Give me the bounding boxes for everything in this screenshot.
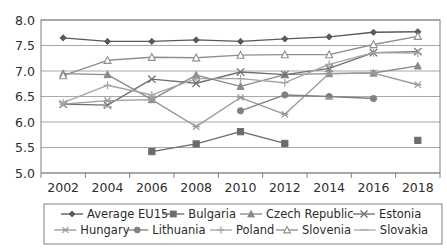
legend-label: Czech Republic [266, 207, 354, 221]
x-tick-label: 2014 [313, 180, 345, 195]
y-tick-label: 6.0 [15, 115, 35, 130]
marker-square [282, 140, 288, 146]
marker-triangle-open [414, 33, 421, 40]
marker-triangle [414, 62, 421, 69]
y-axis-labels: 5.05.56.06.57.07.58.0 [15, 13, 35, 181]
marker-diamond [237, 38, 243, 44]
legend: Average EU15BulgariaCzech RepublicEstoni… [44, 204, 442, 244]
marker-diamond [60, 35, 66, 41]
x-tick-label: 2004 [92, 180, 124, 195]
chart-canvas: 5.05.56.06.57.07.58.02002200420062008201… [0, 0, 447, 249]
x-tick-label: 2010 [225, 180, 257, 195]
marker-diamond [149, 38, 155, 44]
legend-label: Estonia [379, 207, 421, 221]
marker-circle [134, 227, 140, 233]
series-lithuania [237, 92, 376, 114]
legend-label: Average EU15 [87, 207, 168, 221]
marker-square [237, 129, 243, 135]
legend-label: Slovenia [302, 223, 351, 237]
line-chart: 5.05.56.06.57.07.58.02002200420062008201… [0, 0, 447, 249]
series-line [152, 132, 285, 152]
series-bulgaria [149, 129, 421, 155]
x-axis-labels: 200220042006200820102012201420162018 [41, 173, 440, 195]
x-tick-label: 2012 [269, 180, 301, 195]
marker-circle [237, 108, 243, 114]
marker-diamond [370, 29, 376, 35]
series-average-eu15 [60, 29, 421, 45]
y-tick-label: 6.5 [15, 89, 35, 104]
legend-label: Slovakia [380, 223, 428, 237]
marker-diamond [104, 38, 110, 44]
x-tick-label: 2002 [47, 180, 79, 195]
marker-diamond [326, 34, 332, 40]
series-group [59, 29, 421, 155]
x-tick-label: 2018 [402, 180, 434, 195]
marker-square [149, 148, 155, 154]
marker-diamond [193, 37, 199, 43]
x-tick-label: 2008 [180, 180, 212, 195]
x-tick-label: 2006 [136, 180, 168, 195]
y-tick-label: 8.0 [15, 13, 35, 28]
y-tick-label: 7.5 [15, 38, 35, 53]
series-line [241, 95, 374, 111]
marker-square [415, 137, 421, 143]
marker-circle [370, 95, 376, 101]
y-tick-label: 5.0 [15, 166, 35, 181]
legend-label: Hungary [80, 223, 129, 237]
x-tick-label: 2016 [358, 180, 390, 195]
y-tick-label: 7.0 [15, 64, 35, 79]
marker-square [193, 141, 199, 147]
y-tick-label: 5.5 [15, 140, 35, 155]
legend-label: Lithuania [152, 223, 205, 237]
legend-label: Poland [236, 223, 274, 237]
marker-circle [282, 92, 288, 98]
marker-square [170, 211, 176, 217]
marker-diamond [282, 36, 288, 42]
legend-label: Bulgaria [188, 207, 236, 221]
